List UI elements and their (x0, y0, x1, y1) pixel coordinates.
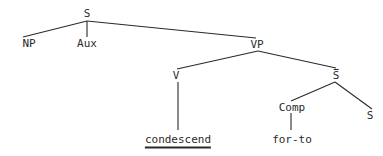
leaf-condescend: condescend (145, 134, 211, 149)
edge-sbar-comp (291, 82, 335, 101)
node-comp: Comp (279, 102, 306, 114)
node-vp: VP (250, 39, 263, 51)
sbar-label: S (333, 70, 340, 82)
edge-vp-v (177, 51, 258, 69)
edge-s-vp (87, 21, 256, 38)
edge-vp-sbar (258, 51, 336, 68)
node-np: NP (22, 38, 35, 50)
node-sbar: S (333, 70, 340, 82)
edge-s-np (23, 21, 87, 37)
node-aux: Aux (77, 38, 97, 50)
node-v: V (173, 70, 180, 82)
node-s: S (84, 8, 91, 20)
edge-sbar-s (335, 82, 372, 109)
node-s2: S (367, 110, 374, 122)
leaf-for-to: for-to (272, 134, 312, 146)
